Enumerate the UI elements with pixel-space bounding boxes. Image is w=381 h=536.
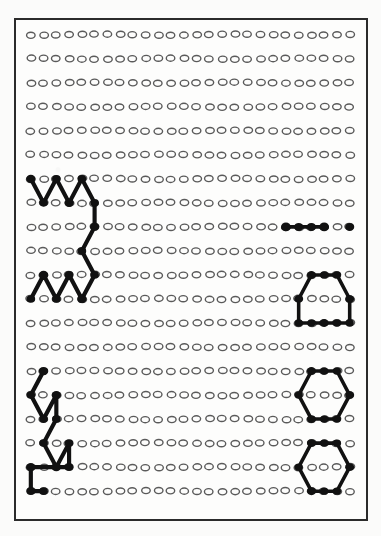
- hole: [231, 489, 240, 495]
- hole: [154, 488, 163, 494]
- hole: [166, 199, 175, 205]
- hole: [257, 344, 266, 350]
- hole: [257, 224, 266, 230]
- figure-node: [320, 271, 328, 278]
- hole: [103, 31, 112, 37]
- hole: [65, 392, 74, 398]
- hole: [319, 176, 328, 182]
- hole: [231, 175, 240, 181]
- hole: [91, 393, 100, 399]
- hole: [180, 248, 189, 254]
- hole: [218, 200, 227, 206]
- hole: [77, 393, 86, 399]
- hole: [206, 104, 215, 110]
- hole: [295, 488, 304, 494]
- hole: [78, 127, 87, 133]
- hole: [193, 344, 202, 350]
- hole: [52, 368, 61, 374]
- hole: [321, 128, 330, 134]
- hole: [27, 55, 36, 61]
- hole: [53, 272, 62, 278]
- hole: [219, 56, 228, 62]
- hole: [193, 176, 202, 182]
- hole: [166, 343, 175, 349]
- hole: [282, 128, 291, 134]
- figure-node: [320, 415, 328, 422]
- hole: [167, 151, 176, 157]
- hole: [333, 176, 342, 182]
- hole: [204, 344, 213, 350]
- figure-node: [52, 391, 61, 399]
- hole: [205, 56, 214, 62]
- hole: [269, 296, 278, 302]
- hole: [27, 80, 36, 86]
- hole: [116, 56, 125, 62]
- hole: [167, 224, 176, 230]
- hole: [90, 152, 99, 158]
- hole: [116, 416, 125, 422]
- hole: [180, 32, 189, 38]
- hole: [230, 416, 239, 422]
- hole: [319, 55, 328, 61]
- hole: [142, 369, 151, 375]
- hole: [230, 223, 239, 229]
- hole: [91, 104, 100, 110]
- hole: [308, 32, 317, 38]
- hole: [128, 176, 137, 182]
- hole: [51, 344, 60, 350]
- hole: [345, 415, 354, 421]
- hole: [116, 127, 125, 133]
- figure-node: [295, 391, 303, 398]
- hole: [243, 223, 252, 229]
- hole: [103, 104, 112, 110]
- hole: [65, 32, 74, 38]
- hole: [27, 368, 36, 374]
- hole: [308, 151, 317, 157]
- hole: [27, 103, 36, 109]
- hole: [115, 248, 124, 254]
- hole: [155, 176, 164, 182]
- hole: [217, 415, 226, 421]
- figure-node: [333, 271, 341, 278]
- hole: [230, 367, 239, 373]
- hole: [102, 440, 111, 446]
- hole-layer: [26, 31, 355, 495]
- hole: [78, 463, 87, 469]
- hole: [128, 32, 137, 38]
- hole: [154, 103, 163, 109]
- hole: [142, 391, 151, 397]
- hole: [307, 128, 316, 134]
- hole: [116, 488, 125, 494]
- figure-node: [307, 415, 316, 423]
- hole: [320, 464, 329, 470]
- hole: [90, 79, 99, 85]
- hole: [104, 56, 113, 62]
- hole: [167, 103, 176, 109]
- hole: [294, 32, 303, 38]
- figure-node: [333, 488, 341, 495]
- hole: [192, 56, 201, 62]
- hole: [307, 199, 316, 205]
- hole: [27, 247, 36, 253]
- hole: [180, 392, 189, 398]
- hole: [281, 199, 290, 205]
- hole: [204, 489, 213, 495]
- hole: [306, 392, 315, 398]
- hole: [116, 272, 125, 278]
- hole: [345, 56, 354, 62]
- hole: [166, 488, 175, 494]
- hole: [319, 344, 328, 350]
- hole: [268, 248, 277, 254]
- hole: [230, 79, 239, 85]
- hole: [333, 200, 342, 206]
- stepped-zigzag-with-bracket: [26, 367, 73, 495]
- figure-node: [307, 487, 316, 495]
- hole: [346, 489, 355, 495]
- hole: [257, 56, 266, 62]
- hole: [141, 320, 150, 326]
- hole: [26, 320, 35, 326]
- hole: [51, 488, 60, 494]
- hole: [154, 80, 163, 86]
- hole: [179, 296, 188, 302]
- hole: [219, 223, 228, 229]
